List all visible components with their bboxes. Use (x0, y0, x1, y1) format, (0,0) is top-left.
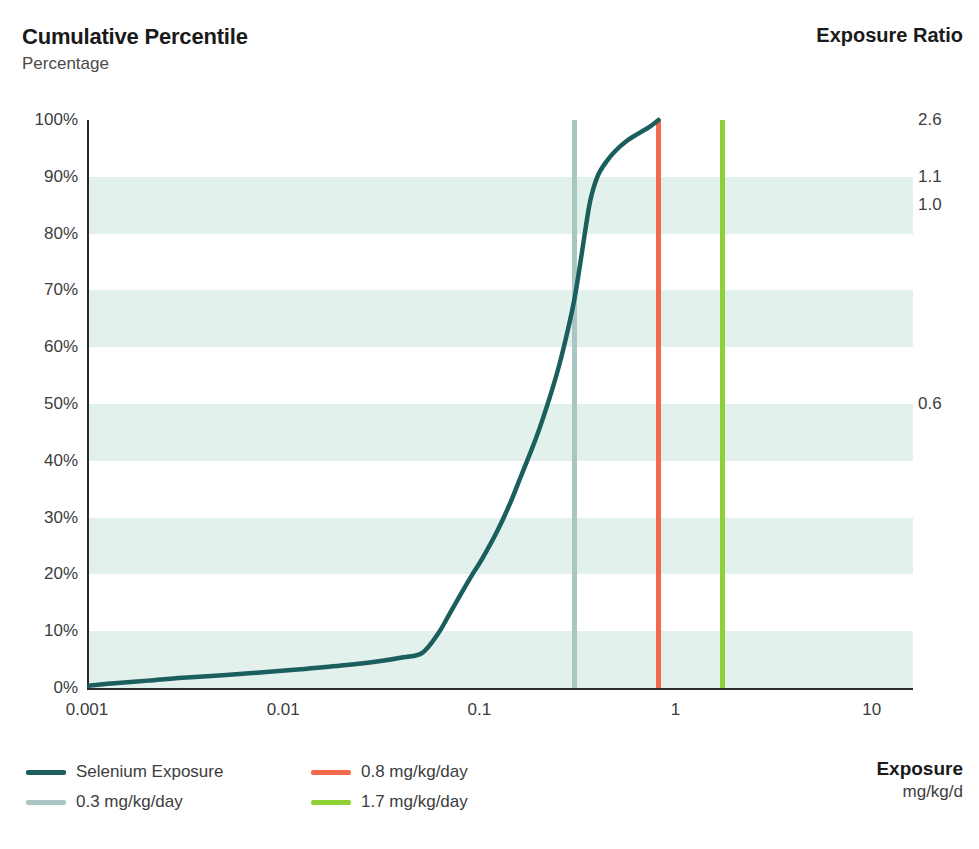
x-axis-ticks: 0.0010.010.1110 (87, 700, 911, 730)
exposure-ratio-tick-label: 1.1 (918, 167, 942, 187)
legend-item-label: 1.7 mg/kg/day (361, 792, 468, 812)
x-tick-label: 0.1 (468, 700, 492, 720)
exposure-ratio-tick-label: 0.6 (918, 394, 942, 414)
y-tick-label: 20% (8, 564, 78, 584)
exposure-ratio-tick-label: 2.6 (918, 110, 942, 130)
legend-item[interactable]: 1.7 mg/kg/day (311, 792, 546, 812)
x-tick-label: 10 (862, 700, 881, 720)
y-tick-label: 90% (8, 167, 78, 187)
y-tick-label: 60% (8, 337, 78, 357)
y-tick-label: 30% (8, 508, 78, 528)
legend-swatch-icon (311, 800, 351, 805)
legend-swatch-icon (26, 800, 66, 805)
figure-caption (16, 836, 976, 849)
legend-swatch-icon (26, 770, 66, 775)
y-tick-label: 10% (8, 621, 78, 641)
y-tick-label: 70% (8, 280, 78, 300)
legend-item-label: 0.8 mg/kg/day (361, 762, 468, 782)
y-axis-right-ticks: 2.61.11.00.6 (918, 120, 979, 688)
x-axis-title-group: Exposure mg/kg/d (876, 757, 963, 803)
y-tick-label: 100% (8, 110, 78, 130)
y-tick-label: 0% (8, 678, 78, 698)
x-axis-title: Exposure (876, 757, 963, 781)
y-axis-left-ticks: 0%10%20%30%40%50%60%70%80%90%100% (0, 120, 78, 688)
y-tick-label: 50% (8, 394, 78, 414)
legend-item-label: Selenium Exposure (76, 762, 223, 782)
x-tick-label: 0.01 (267, 700, 300, 720)
legend-item[interactable]: 0.8 mg/kg/day (311, 762, 546, 782)
x-tick-label: 0.001 (66, 700, 109, 720)
legend-item[interactable]: Selenium Exposure (26, 762, 311, 782)
legend-swatch-icon (311, 770, 351, 775)
y-tick-label: 80% (8, 224, 78, 244)
x-axis-units: mg/kg/d (876, 781, 963, 803)
legend-item-label: 0.3 mg/kg/day (76, 792, 183, 812)
x-tick-label: 1 (671, 700, 680, 720)
exposure-ratio-tick-label: 1.0 (918, 195, 942, 215)
plot-area (87, 120, 913, 690)
legend-item[interactable]: 0.3 mg/kg/day (26, 792, 311, 812)
chart-plot-wrapper: 0%10%20%30%40%50%60%70%80%90%100% 2.61.1… (0, 0, 979, 849)
chart-legend: Selenium Exposure0.8 mg/kg/day0.3 mg/kg/… (26, 757, 546, 817)
y-tick-label: 40% (8, 451, 78, 471)
series-curve-selenium-exposure (89, 120, 913, 688)
